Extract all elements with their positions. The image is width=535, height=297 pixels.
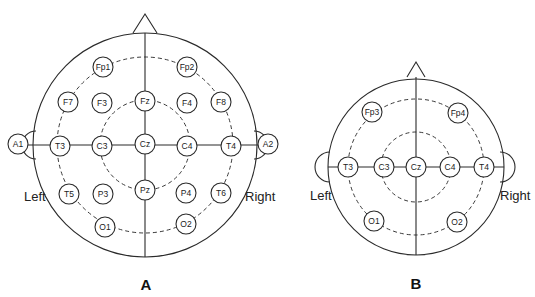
electrode-o1: O1	[364, 211, 384, 231]
electrode-t3: T3	[338, 157, 358, 177]
svg-text:T4: T4	[226, 141, 236, 151]
electrode-c3: C3	[374, 157, 394, 177]
electrode-fp3: Fp3	[362, 102, 382, 122]
nose-icon	[133, 14, 157, 33]
svg-text:O1: O1	[368, 216, 380, 226]
electrode-f4: F4	[177, 93, 197, 113]
svg-text:T5: T5	[64, 189, 74, 199]
panel-b: Fp3 Fp4 T3 C3 Cz C4 T4 O1 O2 Left Right …	[310, 62, 531, 292]
electrode-fp4: Fp4	[448, 103, 468, 123]
right-label: Right	[500, 188, 531, 203]
svg-text:A2: A2	[263, 139, 274, 149]
eeg-electrode-diagram: Fp1 Fp2 F7 F3 Fz F4 F8 A1 T3 C3 Cz C4 T4…	[0, 0, 535, 297]
nose-icon	[407, 62, 425, 77]
electrode-o1: O1	[95, 217, 115, 237]
electrode-o2: O2	[447, 212, 467, 232]
electrode-p4: P4	[176, 183, 196, 203]
electrode-fp2: Fp2	[177, 57, 197, 77]
svg-text:Fp2: Fp2	[180, 62, 195, 72]
svg-text:Fz: Fz	[140, 96, 149, 106]
electrode-c4: C4	[177, 136, 197, 156]
svg-text:Pz: Pz	[140, 185, 150, 195]
svg-text:A1: A1	[13, 139, 24, 149]
svg-text:T6: T6	[216, 188, 226, 198]
svg-text:Cz: Cz	[140, 139, 150, 149]
panel-a: Fp1 Fp2 F7 F3 Fz F4 F8 A1 T3 C3 Cz C4 T4…	[8, 14, 278, 293]
electrode-p3: P3	[93, 184, 113, 204]
electrode-t4: T4	[221, 136, 241, 156]
svg-text:F8: F8	[216, 97, 226, 107]
electrode-c4: C4	[440, 157, 460, 177]
svg-text:O2: O2	[180, 219, 192, 229]
electrode-t3: T3	[50, 136, 70, 156]
svg-text:Fp4: Fp4	[451, 108, 466, 118]
svg-text:P4: P4	[181, 188, 192, 198]
svg-text:C4: C4	[182, 141, 193, 151]
electrode-cz: Cz	[135, 134, 155, 154]
electrode-pz: Pz	[135, 180, 155, 200]
electrode-fz: Fz	[135, 91, 155, 111]
svg-text:O2: O2	[451, 217, 463, 227]
electrode-o2: O2	[176, 214, 196, 234]
panel-label-b: B	[411, 275, 422, 292]
electrode-c3: C3	[92, 136, 112, 156]
svg-text:T4: T4	[479, 162, 489, 172]
electrode-a2: A2	[258, 134, 278, 154]
electrode-a1: A1	[8, 134, 28, 154]
svg-text:Fp3: Fp3	[365, 107, 380, 117]
electrode-f7: F7	[58, 92, 78, 112]
panel-label-a: A	[141, 276, 152, 293]
svg-text:F7: F7	[63, 97, 73, 107]
svg-text:T3: T3	[55, 141, 65, 151]
svg-text:F4: F4	[182, 98, 192, 108]
electrode-f8: F8	[211, 92, 231, 112]
electrode-fp1: Fp1	[93, 57, 113, 77]
svg-text:Cz: Cz	[411, 162, 421, 172]
svg-text:F3: F3	[97, 98, 107, 108]
svg-text:O1: O1	[99, 222, 111, 232]
left-label: Left	[310, 188, 332, 203]
electrode-t4: T4	[474, 157, 494, 177]
svg-text:C3: C3	[379, 162, 390, 172]
svg-text:T3: T3	[343, 162, 353, 172]
right-label: Right	[245, 189, 276, 204]
electrode-f3: F3	[92, 93, 112, 113]
svg-text:C4: C4	[445, 162, 456, 172]
left-label: Left	[24, 189, 46, 204]
electrode-t5: T5	[59, 184, 79, 204]
electrode-cz: Cz	[406, 157, 426, 177]
svg-text:C3: C3	[97, 141, 108, 151]
svg-text:Fp1: Fp1	[96, 62, 111, 72]
svg-text:P3: P3	[98, 189, 109, 199]
electrode-t6: T6	[211, 183, 231, 203]
